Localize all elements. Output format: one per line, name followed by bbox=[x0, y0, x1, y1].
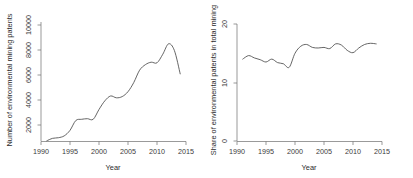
right-series-line bbox=[243, 43, 376, 67]
right-ytick-label-10: 10 bbox=[220, 79, 229, 87]
left-series-line bbox=[47, 44, 180, 141]
left-ytick-label-8000: 8000 bbox=[24, 42, 33, 58]
right-chart-panel: 20 10 0 Share of environmental patents i… bbox=[207, 0, 413, 178]
right-ytick-label-20: 20 bbox=[220, 20, 229, 28]
left-ytick-label-2000: 2000 bbox=[24, 117, 33, 133]
right-x-axis: 1990 1995 2000 2005 2010 2015 Year bbox=[229, 142, 390, 173]
right-x-axis-title: Year bbox=[302, 163, 317, 172]
right-xtick-label-2010: 2010 bbox=[345, 147, 361, 156]
left-xtick-label-2015: 2015 bbox=[178, 147, 194, 156]
left-chart-panel: 10000 8000 6000 4000 2000 Number of envi… bbox=[0, 0, 206, 178]
left-chart-svg: 10000 8000 6000 4000 2000 Number of envi… bbox=[0, 0, 206, 178]
right-xtick-label-1990: 1990 bbox=[229, 147, 245, 156]
left-xtick-label-1995: 1995 bbox=[62, 147, 78, 156]
left-y-axis: 10000 8000 6000 4000 2000 Number of envi… bbox=[5, 13, 41, 146]
left-x-axis-title: Year bbox=[106, 163, 121, 172]
left-ytick-label-6000: 6000 bbox=[24, 67, 33, 83]
right-chart-svg: 20 10 0 Share of environmental patents i… bbox=[207, 0, 413, 178]
left-xtick-label-2005: 2005 bbox=[120, 147, 136, 156]
left-x-axis: 1990 1995 2000 2005 2010 2015 Year bbox=[33, 142, 194, 173]
two-panel-line-chart-figure: 10000 8000 6000 4000 2000 Number of envi… bbox=[0, 0, 413, 178]
right-xtick-label-2015: 2015 bbox=[374, 147, 390, 156]
right-y-axis-title: Share of environmental patents in total … bbox=[209, 5, 218, 155]
right-xtick-label-1995: 1995 bbox=[258, 147, 274, 156]
right-ytick-label-0: 0 bbox=[220, 139, 229, 143]
right-xtick-label-2005: 2005 bbox=[316, 147, 332, 156]
left-y-axis-title: Number of environmental mining patents bbox=[5, 13, 14, 146]
right-xtick-label-2000: 2000 bbox=[287, 147, 303, 156]
left-xtick-label-2010: 2010 bbox=[149, 147, 165, 156]
right-y-axis: 20 10 0 Share of environmental patents i… bbox=[209, 5, 237, 155]
left-ytick-label-4000: 4000 bbox=[24, 92, 33, 108]
left-xtick-label-1990: 1990 bbox=[33, 147, 49, 156]
left-ytick-label-10000: 10000 bbox=[24, 15, 33, 35]
left-xtick-label-2000: 2000 bbox=[91, 147, 107, 156]
